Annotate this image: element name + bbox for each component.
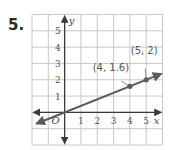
- y-tick-label: 3: [55, 59, 61, 69]
- point-label: (5, 2): [131, 45, 158, 56]
- x-axis-label: x: [154, 115, 160, 126]
- y-tick-label: 2: [55, 75, 61, 85]
- x-tick-label: 2: [94, 116, 100, 126]
- y-tick-label: 1: [55, 92, 61, 102]
- x-tick-label: 4: [127, 116, 133, 126]
- data-point: [144, 77, 149, 82]
- x-tick-label: 3: [111, 116, 117, 126]
- y-tick-label: 5: [55, 26, 61, 36]
- x-tick-label: 1: [78, 116, 84, 126]
- y-axis-label: y: [68, 15, 75, 26]
- x-tick-label: 5: [143, 116, 149, 126]
- point-label: (4, 1.6): [93, 62, 130, 73]
- data-point: [127, 84, 132, 89]
- y-tick-label: 4: [55, 43, 61, 53]
- coordinate-plane: 1234512345xyO (4, 1.6)(5, 2): [0, 0, 170, 150]
